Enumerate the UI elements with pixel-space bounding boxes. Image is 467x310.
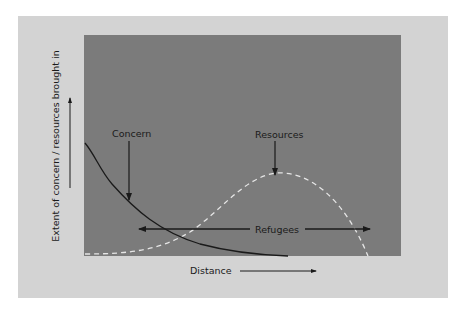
concern-curve	[85, 143, 288, 256]
diagram-graphics	[0, 0, 467, 310]
y-axis-label: Extent of concern / resources brought in	[51, 50, 61, 241]
resources-label: Resources	[255, 130, 304, 140]
refugees-label: Refugees	[255, 225, 299, 235]
x-axis-label: Distance	[190, 266, 232, 276]
resources-curve	[85, 173, 368, 256]
concern-label: Concern	[112, 129, 151, 139]
